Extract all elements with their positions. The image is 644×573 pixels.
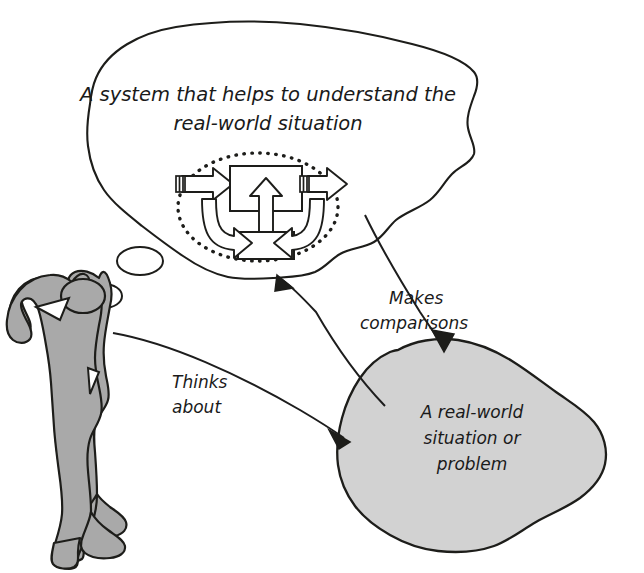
real-world-blob-line3: problem <box>436 454 508 474</box>
makes-comparisons-label-line2: comparisons <box>360 313 468 333</box>
thinks-about-label-line1: Thinks <box>172 372 228 392</box>
person-head <box>61 279 105 313</box>
thought-bubble-line1: A system that helps to understand the <box>78 83 456 106</box>
thought-bubble-line2: real-world situation <box>173 112 362 135</box>
diagram-canvas: A system that helps to understand the re… <box>0 0 644 573</box>
person-left-foot <box>51 538 80 569</box>
makes-comparisons-label-line1: Makes <box>389 288 443 308</box>
small-thought-ellipse <box>117 247 163 275</box>
real-world-blob-line2: situation or <box>424 428 522 448</box>
real-world-blob-line1: A real-world <box>420 402 524 422</box>
thinks-about-label-line2: about <box>172 397 222 417</box>
